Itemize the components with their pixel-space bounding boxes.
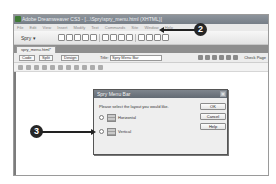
check-page-button[interactable]: Check Page xyxy=(244,55,266,61)
callout-step-2: 2 xyxy=(194,23,207,36)
paste-icon[interactable] xyxy=(82,65,87,70)
spry-menu-bar-dialog: Spry Menu Bar × Please select the layout… xyxy=(93,89,228,155)
window-title: Adobe Dreamweaver CS3 - [...\Spry\spry_m… xyxy=(22,16,162,22)
vertical-option[interactable]: Vertical xyxy=(99,127,131,136)
save-all-icon[interactable] xyxy=(50,65,55,70)
new-document-icon[interactable] xyxy=(18,65,23,70)
redo-icon[interactable] xyxy=(98,65,103,70)
cut-icon[interactable] xyxy=(66,65,71,70)
menu-modify[interactable]: Modify xyxy=(73,25,85,30)
spry-accordion-icon[interactable] xyxy=(154,34,161,41)
document-toolbar: Code Split Design Title: Spry Menu Bar C… xyxy=(14,53,268,63)
menu-view[interactable]: View xyxy=(43,25,52,30)
callout-3-arrow xyxy=(42,131,92,133)
validate-markup-icon[interactable] xyxy=(233,55,238,60)
file-management-icon[interactable] xyxy=(198,55,203,60)
undo-icon[interactable] xyxy=(90,65,95,70)
design-view-button[interactable]: Design xyxy=(61,55,79,61)
vertical-layout-icon xyxy=(107,128,116,136)
ok-button[interactable]: OK xyxy=(200,103,226,110)
spry-tabbed-panels-icon[interactable] xyxy=(146,34,153,41)
dialog-title: Spry Menu Bar xyxy=(97,91,130,97)
menu-text[interactable]: Text xyxy=(91,25,98,30)
callout-2-arrowhead xyxy=(159,27,164,33)
horizontal-layout-icon xyxy=(107,114,116,122)
horizontal-option[interactable]: Horizontal xyxy=(99,113,136,122)
refresh-icon[interactable] xyxy=(212,55,217,60)
insert-category-dropdown[interactable]: Spry ▾ xyxy=(21,34,36,42)
spry-validation-textfield-icon[interactable] xyxy=(102,34,109,41)
document-tab[interactable]: spry_menu.html* xyxy=(16,46,56,53)
document-tools xyxy=(198,55,238,60)
browse-bridge-icon[interactable] xyxy=(34,65,39,70)
title-label: Title: xyxy=(100,55,109,61)
toolbar-separator xyxy=(135,34,136,42)
dreamweaver-app-icon xyxy=(15,16,21,22)
menu-file[interactable]: File xyxy=(17,25,23,30)
split-view-button[interactable]: Split xyxy=(39,55,53,61)
menu-edit[interactable]: Edit xyxy=(30,25,37,30)
window-titlebar: Adobe Dreamweaver CS3 - [...\Spry\spry_m… xyxy=(14,15,268,24)
callout-2-arrow xyxy=(163,29,195,31)
spry-region-icon[interactable] xyxy=(66,34,73,41)
copy-icon[interactable] xyxy=(74,65,79,70)
spry-insert-icons xyxy=(58,34,169,42)
spry-menu-bar-icon[interactable] xyxy=(138,34,145,41)
menu-window[interactable]: Window xyxy=(144,25,158,30)
dialog-titlebar: Spry Menu Bar × xyxy=(94,90,227,98)
print-code-icon[interactable] xyxy=(58,65,63,70)
page-title-input[interactable]: Spry Menu Bar xyxy=(110,55,162,61)
close-icon[interactable]: × xyxy=(220,91,226,97)
menu-bar: File Edit View Insert Modify Text Comman… xyxy=(14,24,268,31)
document-tab-strip: spry_menu.html* xyxy=(14,45,268,53)
code-view-button[interactable]: Code xyxy=(19,55,35,61)
open-icon[interactable] xyxy=(26,65,31,70)
spry-repeat-list-icon[interactable] xyxy=(82,34,89,41)
toolbar-separator xyxy=(99,34,100,42)
spry-validation-checkbox-icon[interactable] xyxy=(118,34,125,41)
left-gutter xyxy=(14,72,16,176)
spry-repeat-icon[interactable] xyxy=(74,34,81,41)
standard-toolbar-icons xyxy=(18,65,103,70)
vertical-label: Vertical xyxy=(118,129,131,134)
vertical-radio[interactable] xyxy=(99,129,104,134)
spry-table-icon[interactable] xyxy=(90,34,97,41)
horizontal-label: Horizontal xyxy=(118,115,136,120)
spry-validation-select-icon[interactable] xyxy=(110,34,117,41)
callout-3-arrowhead xyxy=(91,129,96,135)
preview-browser-icon[interactable] xyxy=(205,55,210,60)
visual-aids-icon[interactable] xyxy=(226,55,231,60)
save-icon[interactable] xyxy=(42,65,47,70)
menu-insert[interactable]: Insert xyxy=(57,25,67,30)
spry-xml-dataset-icon[interactable] xyxy=(58,34,65,41)
help-button[interactable]: Help xyxy=(200,123,226,130)
spry-collapsible-panel-icon[interactable] xyxy=(162,34,169,41)
insert-bar: Spry ▾ xyxy=(14,31,268,45)
standard-toolbar xyxy=(14,63,268,72)
spry-validation-textarea-icon[interactable] xyxy=(126,34,133,41)
menu-commands[interactable]: Commands xyxy=(105,25,125,30)
dialog-prompt: Please select the layout you would like. xyxy=(99,104,169,109)
cancel-button[interactable]: Cancel xyxy=(200,113,226,120)
screenshot-stage: Adobe Dreamweaver CS3 - [...\Spry\spry_m… xyxy=(0,0,276,184)
horizontal-radio[interactable] xyxy=(99,115,104,120)
menu-site[interactable]: Site xyxy=(131,25,138,30)
view-options-icon[interactable] xyxy=(219,55,224,60)
